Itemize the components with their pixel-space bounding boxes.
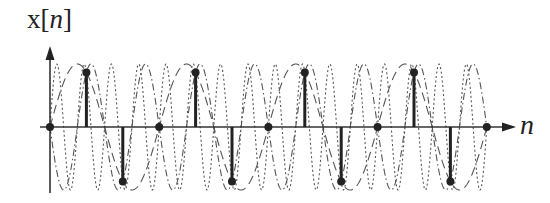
x-axis-label: n	[520, 111, 534, 139]
sample-dot	[483, 123, 491, 131]
sample-dot	[155, 123, 163, 131]
sample-dot	[301, 68, 309, 76]
sample-dot	[337, 178, 345, 186]
sample-dot	[192, 68, 200, 76]
sample-dot	[46, 123, 54, 131]
sample-dot	[82, 68, 90, 76]
sample-dot	[228, 178, 236, 186]
signal-plot	[0, 0, 550, 203]
sample-dot	[119, 178, 127, 186]
sample-dot	[446, 178, 454, 186]
y-label-var: n	[50, 4, 64, 34]
y-label-suffix: ]	[63, 4, 72, 34]
sample-dot	[410, 68, 418, 76]
x-axis-arrowhead-icon	[502, 123, 516, 132]
y-axis-label: x[n]	[27, 6, 72, 33]
sample-dot	[264, 123, 272, 131]
y-label-prefix: x[	[27, 4, 50, 34]
y-axis-arrowhead-icon	[46, 46, 55, 60]
sample-dot	[374, 123, 382, 131]
